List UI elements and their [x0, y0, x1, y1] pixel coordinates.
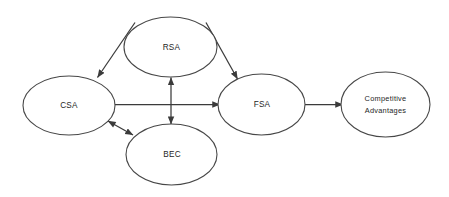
rsa-label: RSA	[163, 43, 181, 52]
node-csa[interactable]: CSA	[23, 76, 115, 135]
framework-diagram: CSA RSA BEC FSA Competitive Advantages	[0, 0, 449, 197]
node-fsa[interactable]: FSA	[218, 74, 305, 135]
csa-label: CSA	[60, 101, 78, 110]
edge-csa-bec	[108, 121, 133, 135]
competitive-advantages-ellipse	[341, 72, 430, 137]
fsa-label: FSA	[254, 100, 271, 109]
bec-label: BEC	[163, 150, 181, 159]
node-competitive-advantages[interactable]: Competitive Advantages	[341, 72, 430, 137]
competitive-advantages-label-line1: Competitive	[365, 94, 407, 103]
node-bec[interactable]: BEC	[126, 124, 217, 185]
node-rsa[interactable]: RSA	[124, 17, 217, 77]
diagram-canvas: CSA RSA BEC FSA Competitive Advantages	[0, 0, 449, 197]
competitive-advantages-label-line2: Advantages	[365, 106, 407, 115]
